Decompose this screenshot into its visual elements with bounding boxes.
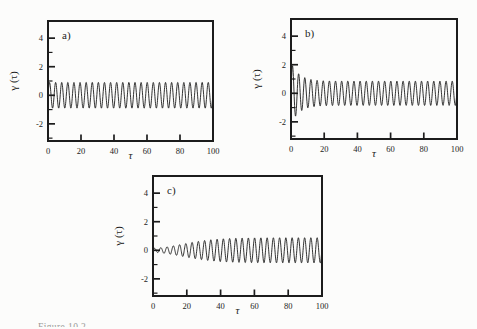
y-tick-label-a: 4: [39, 33, 44, 43]
panel-a-plot: 020406080100-2024a)γ (τ)τ: [3, 9, 229, 171]
panel-letter-a: a): [62, 29, 71, 42]
y-tick-label-c: 2: [144, 217, 148, 227]
y-tick-label-b: 2: [282, 60, 286, 70]
y-axis-label-b: γ (τ): [250, 69, 263, 90]
panel-letter-b: b): [305, 27, 315, 40]
y-tick-label-c: 4: [144, 188, 149, 198]
y-tick-label-b: 4: [282, 31, 287, 41]
axes-frame-b: [291, 19, 457, 139]
x-tick-label-a: 20: [77, 146, 86, 156]
x-tick-label-a: 100: [207, 146, 220, 156]
x-tick-label-c: 0: [151, 301, 155, 311]
y-tick-label-a: -2: [36, 119, 43, 129]
y-tick-label-a: 2: [39, 62, 43, 72]
figure-caption-clipped: Figure 10.2: [38, 321, 338, 327]
x-axis-label-c: τ: [236, 304, 241, 316]
axes-frame-c: [153, 176, 322, 296]
x-axis-label-a: τ: [129, 149, 134, 161]
y-tick-label-c: 0: [144, 245, 148, 255]
x-tick-label-b: 80: [420, 144, 429, 154]
waveform-a: [48, 82, 213, 108]
x-axis-label-b: τ: [372, 147, 377, 159]
x-tick-label-c: 100: [316, 301, 329, 311]
x-tick-label-c: 80: [284, 301, 293, 311]
waveform-c: [153, 238, 322, 263]
x-tick-label-b: 40: [353, 144, 362, 154]
figure: 020406080100-2024a)γ (τ)τ 020406080100-2…: [0, 0, 477, 329]
axes-frame-a: [48, 21, 213, 141]
x-tick-label-b: 100: [451, 144, 464, 154]
x-tick-label-a: 60: [143, 146, 152, 156]
y-tick-label-b: -2: [279, 117, 286, 127]
x-tick-label-b: 0: [289, 144, 293, 154]
x-tick-label-b: 20: [320, 144, 329, 154]
x-tick-label-c: 60: [250, 301, 259, 311]
x-tick-label-c: 20: [183, 301, 192, 311]
panel-c-plot: 020406080100-2024c)γ (τ)τ: [108, 164, 338, 326]
y-tick-label-b: 0: [282, 88, 286, 98]
waveform-b: [291, 66, 457, 116]
x-tick-label-a: 80: [176, 146, 185, 156]
y-tick-label-a: 0: [39, 90, 43, 100]
y-axis-label-c: γ (τ): [112, 226, 125, 247]
x-tick-label-a: 40: [110, 146, 119, 156]
panel-b-plot: 020406080100-2024b)γ (τ)τ: [246, 7, 473, 169]
panel-letter-c: c): [167, 184, 176, 197]
x-tick-label-b: 60: [386, 144, 395, 154]
x-tick-label-c: 40: [216, 301, 225, 311]
y-tick-label-c: -2: [141, 274, 148, 284]
y-axis-label-a: γ (τ): [7, 71, 20, 92]
x-tick-label-a: 0: [46, 146, 50, 156]
